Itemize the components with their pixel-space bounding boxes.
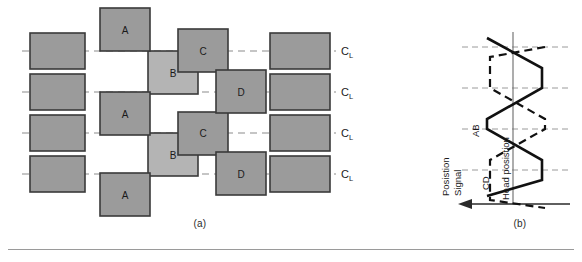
burst-label-D2: D [237,169,244,180]
burst-label-A1: A [122,25,129,36]
burst-label-C1: C [199,46,206,57]
panel-b-caption: (b) [490,218,550,229]
right-rect-3 [270,115,330,151]
left-rect-group [30,33,85,192]
centerline-label-1: CL [341,45,353,60]
burst-label-B2: B [170,150,177,161]
burst-label-A2: A [122,109,129,120]
left-rect-1 [30,33,85,69]
series-label-cd: CD [480,176,491,190]
axis-label-signal: Signal [452,170,463,196]
centerline-label-4: CL [341,168,353,183]
curve-cd [490,47,545,208]
plot-gridline-group [462,47,570,170]
axis-label-position: Posistion [440,157,451,196]
left-rect-2 [30,74,85,110]
panel-b: Posistion Signal AB CD Head posistion [440,32,570,209]
centerline-label-group: CL CL CL CL [341,45,353,183]
centerline-label-3: CL [341,127,353,142]
panel-a-caption: (a) [170,218,230,229]
burst-label-D1: D [237,87,244,98]
left-rect-4 [30,156,85,192]
burst-label-C2: C [199,128,206,139]
position-signal-arrowhead [458,199,472,209]
right-rect-2 [270,74,330,110]
curve-ab [487,38,542,196]
figure-container: A A A B B C C D D CL CL CL CL [0,0,582,262]
burst-label-A3: A [122,190,129,201]
right-rect-group [270,33,330,192]
burst-label-B1: B [170,68,177,79]
axis-label-head-position: Head posistion [500,137,511,200]
series-label-ab: AB [470,124,481,137]
left-rect-3 [30,115,85,151]
panel-a: A A A B B C C D D CL CL CL CL [22,8,353,216]
right-rect-4 [270,156,330,192]
right-rect-1 [270,33,330,69]
figure-bottom-rule [8,249,574,250]
centerline-label-2: CL [341,86,353,101]
